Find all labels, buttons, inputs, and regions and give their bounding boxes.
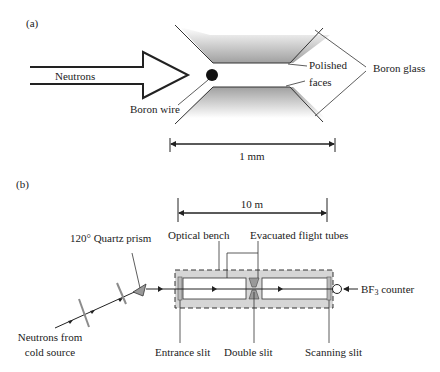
boron-wire-label: Boron wire xyxy=(130,103,180,115)
flight-tubes-label: Evacuated flight tubes xyxy=(250,229,348,241)
diagram-canvas xyxy=(0,0,440,372)
quartz-prism-label: 120° Quartz prism xyxy=(70,232,151,244)
panel-b-label: (b) xyxy=(16,178,29,190)
upper-boron-glass-block xyxy=(175,25,330,63)
double-slit-label: Double slit xyxy=(224,346,273,358)
panel-a-label: (a) xyxy=(26,17,38,29)
scanning-slit-label: Scanning slit xyxy=(305,346,362,358)
source-label-line2: cold source xyxy=(10,346,90,358)
scale-10m-label: 10 m xyxy=(232,198,272,210)
scale-1mm-label: 1 mm xyxy=(232,150,272,162)
entrance-slit-label: Entrance slit xyxy=(155,346,210,358)
optical-bench-label: Optical bench xyxy=(168,229,229,241)
source-label-line1: Neutrons from xyxy=(10,331,90,343)
neutrons-label: Neutrons xyxy=(55,70,95,82)
boron-glass-label: Boron glass xyxy=(373,62,425,74)
bf3-counter xyxy=(333,285,342,294)
lower-boron-glass-block xyxy=(175,87,325,124)
faces-label: faces xyxy=(309,76,332,88)
filter-2 xyxy=(117,283,126,304)
bf3-counter-label: BF3 counter xyxy=(361,283,414,295)
polished-label: Polished xyxy=(309,59,347,71)
boron-wire-dot xyxy=(206,69,218,81)
